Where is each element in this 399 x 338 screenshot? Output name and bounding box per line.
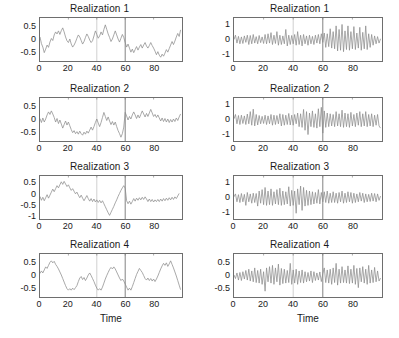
subplot-title: Realization 1 bbox=[0, 3, 199, 14]
subplot-right-4: Realization 40.50-0.5020406080Time bbox=[200, 236, 399, 338]
plot-area bbox=[233, 17, 383, 62]
y-axis-tick-labels: 10-1 bbox=[200, 17, 230, 62]
x-tick-label: 20 bbox=[258, 144, 268, 153]
data-line bbox=[234, 107, 381, 134]
figure-canvas: Realization 10.50-0.5020406080Realizatio… bbox=[0, 0, 399, 338]
x-tick-label: 60 bbox=[120, 300, 130, 309]
subplot-title: Realization 3 bbox=[0, 161, 199, 172]
subplot-title: Realization 2 bbox=[200, 83, 399, 94]
y-tick-label: 0 bbox=[225, 271, 230, 280]
x-tick-label: 20 bbox=[258, 222, 268, 231]
x-tick-label: 80 bbox=[348, 144, 358, 153]
data-line bbox=[234, 24, 381, 51]
data-line bbox=[234, 186, 381, 213]
subplot-title: Realization 3 bbox=[200, 161, 399, 172]
data-line bbox=[40, 261, 181, 290]
x-tick-label: 40 bbox=[288, 300, 298, 309]
x-tick-label: 40 bbox=[92, 300, 102, 309]
x-tick-label: 80 bbox=[149, 144, 159, 153]
y-tick-label: 0 bbox=[225, 115, 230, 124]
subplot-right-1: Realization 110-1020406080 bbox=[200, 0, 399, 79]
series-plot bbox=[40, 98, 182, 141]
subplot-left-4: Realization 40.50-0.5020406080Time bbox=[0, 236, 199, 338]
x-tick-label: 20 bbox=[258, 64, 268, 73]
x-tick-label: 80 bbox=[149, 222, 159, 231]
y-tick-label: 0 bbox=[31, 271, 36, 280]
y-axis-tick-labels: 0.50-0.5 bbox=[0, 17, 36, 62]
subplot-right-3: Realization 310-1020406080 bbox=[200, 158, 399, 237]
x-tick-label: 40 bbox=[288, 144, 298, 153]
data-line bbox=[40, 109, 181, 137]
x-tick-label: 80 bbox=[348, 300, 358, 309]
y-tick-label: 1 bbox=[225, 178, 230, 187]
y-tick-label: 0.5 bbox=[23, 178, 36, 187]
subplot-title: Realization 1 bbox=[200, 3, 399, 14]
figure-column-left: Realization 10.50-0.5020406080Realizatio… bbox=[0, 0, 199, 338]
y-axis-tick-labels: 0.50-0.5 bbox=[0, 97, 36, 142]
y-tick-label: 0.5 bbox=[217, 258, 230, 267]
y-tick-label: 0.5 bbox=[23, 258, 36, 267]
x-tick-label: 0 bbox=[230, 222, 235, 231]
y-tick-label: 0 bbox=[31, 35, 36, 44]
y-tick-label: -1 bbox=[222, 208, 230, 217]
x-tick-label: 40 bbox=[288, 64, 298, 73]
y-tick-label: 0.5 bbox=[23, 22, 36, 31]
series-plot bbox=[234, 98, 382, 141]
x-tick-label: 20 bbox=[63, 300, 73, 309]
y-tick-label: -1 bbox=[222, 130, 230, 139]
subplot-title: Realization 4 bbox=[200, 239, 399, 250]
y-tick-label: 0 bbox=[225, 35, 230, 44]
plot-area bbox=[233, 97, 383, 142]
data-line bbox=[234, 263, 381, 291]
subplot-left-3: Realization 30.50-0.5-1020406080 bbox=[0, 158, 199, 237]
y-tick-label: -0.5 bbox=[20, 284, 36, 293]
plot-area bbox=[39, 175, 183, 220]
y-tick-label: -0.5 bbox=[20, 128, 36, 137]
x-tick-label: 0 bbox=[36, 64, 41, 73]
plot-area bbox=[39, 253, 183, 298]
x-tick-label: 80 bbox=[149, 300, 159, 309]
figure-column-right: Realization 110-1020406080Realization 21… bbox=[200, 0, 399, 338]
x-axis-label: Time bbox=[233, 313, 383, 324]
x-tick-label: 60 bbox=[120, 144, 130, 153]
y-axis-tick-labels: 0.50-0.5-1 bbox=[0, 175, 36, 220]
plot-area bbox=[233, 175, 383, 220]
x-axis-label: Time bbox=[39, 313, 183, 324]
x-tick-label: 40 bbox=[92, 222, 102, 231]
x-tick-label: 60 bbox=[318, 300, 328, 309]
y-tick-label: 1 bbox=[225, 100, 230, 109]
subplot-right-2: Realization 210-1020406080 bbox=[200, 80, 399, 159]
x-tick-label: 40 bbox=[92, 64, 102, 73]
y-tick-label: -1 bbox=[28, 212, 36, 221]
y-tick-label: -1 bbox=[222, 50, 230, 59]
plot-area bbox=[39, 97, 183, 142]
series-plot bbox=[40, 176, 182, 219]
series-plot bbox=[234, 254, 382, 297]
x-tick-label: 40 bbox=[288, 222, 298, 231]
y-tick-label: -0.5 bbox=[214, 284, 230, 293]
plot-area bbox=[39, 17, 183, 62]
subplot-left-2: Realization 20.50-0.5020406080 bbox=[0, 80, 199, 159]
x-tick-label: 0 bbox=[230, 144, 235, 153]
x-tick-label: 0 bbox=[230, 300, 235, 309]
data-line bbox=[40, 25, 181, 57]
x-tick-label: 0 bbox=[36, 300, 41, 309]
y-tick-label: 0 bbox=[225, 193, 230, 202]
x-tick-label: 20 bbox=[63, 64, 73, 73]
x-tick-label: 20 bbox=[63, 222, 73, 231]
y-axis-tick-labels: 0.50-0.5 bbox=[200, 253, 230, 298]
x-tick-label: 60 bbox=[318, 222, 328, 231]
x-tick-label: 0 bbox=[36, 144, 41, 153]
subplot-left-1: Realization 10.50-0.5020406080 bbox=[0, 0, 199, 79]
series-plot bbox=[40, 18, 182, 61]
y-axis-tick-labels: 10-1 bbox=[200, 97, 230, 142]
y-tick-label: 0 bbox=[31, 190, 36, 199]
y-tick-label: 0.5 bbox=[23, 102, 36, 111]
y-tick-label: -0.5 bbox=[20, 48, 36, 57]
y-axis-tick-labels: 0.50-0.5 bbox=[0, 253, 36, 298]
subplot-title: Realization 2 bbox=[0, 83, 199, 94]
x-tick-label: 60 bbox=[318, 144, 328, 153]
x-tick-label: 60 bbox=[120, 64, 130, 73]
x-tick-label: 0 bbox=[36, 222, 41, 231]
x-tick-label: 20 bbox=[258, 300, 268, 309]
